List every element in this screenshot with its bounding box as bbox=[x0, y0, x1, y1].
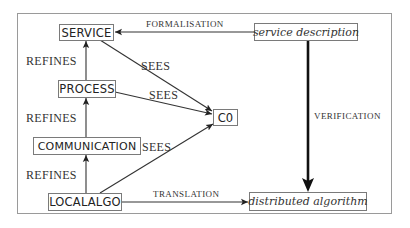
node-service: SERVICE bbox=[59, 24, 114, 41]
label-sees-service: SEES bbox=[141, 59, 170, 74]
label-translation: TRANSLATION bbox=[153, 189, 219, 199]
node-service-description: service description bbox=[254, 23, 358, 41]
node-distributed-algorithm: distributed algorithm bbox=[249, 192, 367, 211]
label-sees-localalgo: SEES bbox=[142, 140, 171, 155]
sees-edge-localalgo-c0 bbox=[100, 124, 213, 193]
node-localalgo: LOCALALGO bbox=[48, 193, 122, 211]
label-refines-3: REFINES bbox=[26, 168, 77, 183]
label-refines-2: REFINES bbox=[26, 111, 77, 126]
label-verification: VERIFICATION bbox=[314, 111, 381, 121]
node-c0: C0 bbox=[213, 109, 238, 126]
label-formalisation: FORMALISATION bbox=[146, 19, 224, 29]
label-sees-process: SEES bbox=[149, 88, 178, 103]
node-process: PROCESS bbox=[58, 80, 116, 98]
node-communication: COMMUNICATION bbox=[33, 137, 141, 155]
refinement-diagram: SERVICE service description PROCESS C0 C… bbox=[0, 0, 410, 228]
label-refines-1: REFINES bbox=[26, 54, 77, 69]
